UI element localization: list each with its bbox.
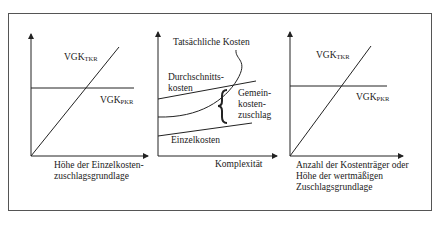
x-axis-label: Anzahl der Kostenträger oderHöhe der wer… xyxy=(296,160,409,193)
vgk-pkr-label: VGKPKR xyxy=(100,95,133,106)
vgk-tkr-label: VGKTKR xyxy=(316,50,350,61)
overhead-surcharge-label: Gemein-kosten-zuschlag xyxy=(238,88,271,121)
x-axis-label: Höhe der Einzelkosten-zuschlagsgrundlage xyxy=(54,160,144,182)
actual-cost-label: Tatsächliche Kosten xyxy=(173,37,250,48)
vgk-pkr-label: VGKPKR xyxy=(356,92,389,103)
average-cost-label: Durchschnitts-kosten xyxy=(168,72,224,94)
x-axis-label: Komplexität xyxy=(215,159,263,170)
direct-cost-label: Einzelkosten xyxy=(171,135,220,146)
vgk-tkr-label: VGKTKR xyxy=(64,52,98,63)
